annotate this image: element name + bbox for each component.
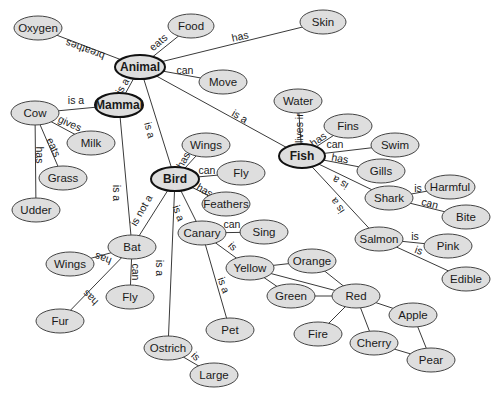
node-label: Gills (370, 165, 393, 177)
node-label: Red (345, 290, 366, 302)
edge-label-canary-sing: can (224, 218, 241, 230)
node-bite: Bite (442, 205, 490, 229)
edge-label-bird-bat: is not a (127, 192, 154, 227)
node-label: Canary (183, 227, 220, 239)
node-oxygen: Oxygen (14, 16, 62, 40)
node-label: Fish (290, 149, 315, 163)
node-udder: Udder (12, 198, 60, 222)
node-skin: Skin (300, 10, 346, 34)
node-label: Feathers (203, 198, 249, 210)
node-canary: Canary (178, 221, 226, 245)
node-cherry: Cherry (350, 331, 398, 355)
node-pear: Pear (407, 348, 455, 372)
node-label: Fins (337, 120, 359, 132)
node-label: Bite (456, 211, 476, 223)
node-label: Udder (20, 204, 51, 216)
node-cow: Cow (11, 101, 59, 125)
node-label: Animal (120, 60, 160, 74)
node-label: Bat (123, 241, 141, 253)
node-label: Ostrich (150, 342, 186, 354)
node-label: Apple (398, 309, 427, 321)
node-label: Pear (419, 354, 443, 366)
node-fly_b: Fly (217, 161, 265, 185)
node-label: Swim (381, 139, 409, 151)
node-fur: Fur (36, 309, 84, 333)
node-label: Yellow (234, 262, 268, 274)
node-wings_b: Wings (182, 133, 230, 157)
node-label: Skin (312, 16, 334, 28)
node-harmful: Harmful (425, 175, 475, 199)
node-label: Wings (190, 139, 222, 151)
node-gills: Gills (357, 159, 405, 183)
node-move: Move (199, 70, 247, 94)
concept-map: breatheseatshascanis ais ais ais ais agi… (0, 0, 500, 397)
node-label: Fly (122, 291, 138, 303)
node-fish: Fish (279, 144, 325, 168)
edge-label-animal-oxygen: breathes (64, 37, 107, 62)
edge-label-cow-grass: eats (44, 135, 63, 158)
edge-label-canary-pet: is a (216, 275, 233, 295)
node-label: Large (199, 369, 228, 381)
node-wings_bat: Wings (46, 252, 94, 276)
edge-label-bat-fur: has (80, 288, 100, 308)
edge-label-fish-gills: has (331, 151, 350, 166)
edge-label-animal-bird: is a (142, 121, 158, 140)
node-shark: Shark (365, 186, 413, 210)
edge-label-bat-fly_bat: can (130, 264, 142, 281)
node-label: Fur (51, 315, 68, 327)
node-sing: Sing (240, 220, 288, 244)
node-label: Fire (308, 328, 328, 340)
node-label: Pet (221, 324, 239, 336)
node-orange: Orange (288, 249, 336, 273)
node-large: Large (190, 363, 238, 387)
node-bird: Bird (151, 167, 199, 191)
edge-mammal-bat (119, 105, 132, 247)
node-label: Wings (54, 258, 86, 270)
node-mammal: Mammal (95, 93, 143, 117)
node-label: Edible (450, 273, 482, 285)
node-feathers: Feathers (202, 192, 250, 216)
edge-label-fish-swim: can (327, 138, 344, 150)
nodes-layer: AnimalMammalBirdFishOxygenFoodSkinMoveCo… (11, 10, 490, 387)
node-label: Cow (23, 107, 47, 119)
node-label: Pink (437, 240, 460, 252)
edge-bird-ostrich (168, 179, 175, 348)
edge-label-canary-yellow: is (226, 239, 240, 253)
edge-label-mammal-bat: is a (111, 185, 123, 202)
edge-label-shark-harmful: is (414, 182, 422, 194)
node-label: Orange (293, 255, 331, 267)
node-label: Bird (163, 172, 187, 186)
concept-map-canvas: breatheseatshascanis ais ais ais ais agi… (0, 0, 500, 397)
node-label: Shark (374, 192, 404, 204)
edge-label-animal-food: eats (147, 31, 170, 53)
node-pink: Pink (424, 234, 472, 258)
edge-label-animal-fish: is a (230, 107, 250, 126)
node-label: Grass (48, 172, 79, 184)
node-fire: Fire (294, 322, 342, 346)
node-edible: Edible (442, 267, 490, 291)
node-fly_bat: Fly (106, 285, 154, 309)
node-green: Green (267, 284, 315, 308)
node-label: Water (283, 95, 313, 107)
edge-label-fish-salmon: is a (327, 196, 346, 216)
edge-label-animal-move: can (177, 64, 194, 76)
edge-label-fish-water: lives in (293, 111, 305, 143)
node-yellow: Yellow (226, 256, 274, 280)
node-milk: Milk (67, 131, 115, 155)
node-pet: Pet (206, 318, 254, 342)
edge-label-salmon-edible: is (413, 243, 424, 257)
node-label: Harmful (430, 181, 470, 193)
edge-label-bird-ostrich: is a (154, 260, 166, 277)
node-label: Fly (233, 167, 249, 179)
node-grass: Grass (39, 166, 87, 190)
edge-label-bird-fly_b: can (199, 164, 216, 176)
node-swim: Swim (371, 133, 419, 157)
node-label: Food (178, 20, 204, 32)
node-label: Salmon (360, 233, 399, 245)
edge-label-salmon-pink: is (411, 230, 419, 242)
node-label: Mammal (95, 98, 143, 112)
node-label: Green (275, 290, 307, 302)
node-bat: Bat (108, 235, 156, 259)
node-animal: Animal (115, 55, 165, 79)
edge-label-animal-skin: has (230, 28, 249, 43)
